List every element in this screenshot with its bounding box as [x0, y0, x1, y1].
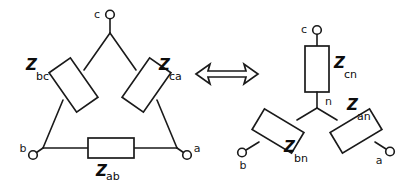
wye-network: c Z cn n b Z bn a Z an [238, 23, 395, 172]
wye-terminal-n-label: n [325, 95, 332, 108]
delta-terminal-a-label: a [194, 142, 201, 155]
wye-impedance-zcn-box [305, 46, 329, 92]
wye-left-branch-inner-wire [297, 108, 317, 120]
delta-wye-figure: c b a Z bc Z ca [0, 0, 399, 182]
delta-terminal-b-label: b [20, 142, 27, 155]
delta-terminal-c-label: c [94, 8, 100, 21]
delta-impedance-zbc-subscript: bc [36, 70, 49, 83]
delta-terminal-c-dot [106, 10, 115, 19]
delta-terminal-a-lead [177, 148, 184, 153]
wye-terminal-c-label: c [301, 23, 307, 36]
delta-impedance-zab-subscript: ab [106, 170, 120, 182]
circuit-diagram-canvas: c b a Z bc Z ca [0, 0, 399, 182]
wye-impedance-zan-box [330, 109, 382, 153]
wye-terminal-a-dot [386, 147, 395, 156]
delta-network: c b a Z bc Z ca [20, 8, 201, 182]
delta-right-leg-lower-wire [157, 100, 177, 148]
double-headed-arrow-icon [196, 64, 258, 84]
delta-left-leg-lower-wire [43, 100, 63, 148]
delta-impedance-zca-subscript: ca [169, 70, 182, 83]
wye-impedance-zan-subscript: an [357, 110, 371, 123]
wye-left-branch-outer-wire [246, 142, 259, 150]
wye-impedance-zcn-subscript: cn [344, 68, 357, 81]
equivalence-arrow [196, 64, 258, 84]
delta-left-leg-upper-wire [84, 33, 110, 70]
wye-terminal-a-label: a [376, 154, 383, 167]
wye-terminal-b-dot [238, 148, 247, 157]
wye-right-branch-inner-wire [317, 108, 337, 120]
wye-right-branch-outer-wire [375, 142, 386, 149]
wye-impedance-zbn-box [252, 109, 304, 153]
delta-impedance-zab-box [88, 138, 134, 158]
wye-terminal-b-label: b [240, 159, 247, 172]
delta-terminal-b-lead [37, 148, 44, 153]
delta-impedance-zbc-box [49, 58, 98, 112]
delta-right-leg-upper-wire [110, 33, 136, 70]
wye-impedance-zbn-subscript: bn [294, 152, 308, 165]
wye-terminal-c-dot [313, 26, 322, 35]
